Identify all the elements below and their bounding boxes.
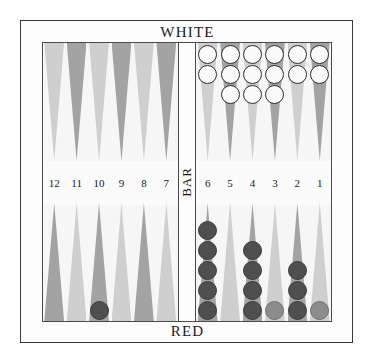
point-8[interactable] bbox=[133, 43, 155, 161]
point-9[interactable] bbox=[110, 203, 132, 321]
bar[interactable]: BAR bbox=[178, 43, 197, 321]
point-6[interactable] bbox=[196, 43, 218, 161]
point-triangle-icon bbox=[134, 43, 154, 161]
point-4[interactable] bbox=[241, 43, 263, 161]
point-11[interactable] bbox=[65, 203, 87, 321]
checker-stack[interactable] bbox=[196, 220, 218, 320]
point-number-12: 12 bbox=[43, 177, 65, 189]
checker-red[interactable] bbox=[198, 281, 217, 300]
checker-white[interactable] bbox=[243, 45, 262, 64]
point-triangle-icon bbox=[89, 43, 109, 161]
point-number-5: 5 bbox=[219, 177, 241, 189]
checker-red[interactable] bbox=[198, 261, 217, 280]
point-9[interactable] bbox=[110, 43, 132, 161]
checker-red[interactable] bbox=[198, 241, 217, 260]
checker-white[interactable] bbox=[265, 65, 284, 84]
checker-red-light[interactable] bbox=[265, 301, 284, 320]
point-1[interactable] bbox=[309, 43, 331, 161]
point-12[interactable] bbox=[43, 203, 65, 321]
player-label-white: WHITE bbox=[21, 24, 354, 41]
checker-white[interactable] bbox=[243, 65, 262, 84]
checker-stack[interactable] bbox=[309, 300, 331, 320]
point-number-11: 11 bbox=[65, 177, 87, 189]
checker-white[interactable] bbox=[221, 85, 240, 104]
point-triangle-icon bbox=[156, 203, 176, 321]
checker-white[interactable] bbox=[288, 65, 307, 84]
left-point-numbers: 121110987 bbox=[43, 161, 178, 205]
checker-white[interactable] bbox=[198, 65, 217, 84]
point-12[interactable] bbox=[43, 43, 65, 161]
left-bottom-quadrant bbox=[43, 203, 178, 321]
board-frame: WHITE RED 121110987 BAR 654321 bbox=[20, 20, 353, 343]
point-number-10: 10 bbox=[88, 177, 110, 189]
point-triangle-icon bbox=[67, 203, 87, 321]
point-6[interactable] bbox=[196, 203, 218, 321]
checker-white[interactable] bbox=[221, 45, 240, 64]
checker-white[interactable] bbox=[265, 85, 284, 104]
right-bottom-quadrant bbox=[196, 203, 331, 321]
point-11[interactable] bbox=[65, 43, 87, 161]
checker-red[interactable] bbox=[288, 301, 307, 320]
checker-white[interactable] bbox=[288, 45, 307, 64]
point-number-9: 9 bbox=[110, 177, 132, 189]
point-5[interactable] bbox=[219, 203, 241, 321]
point-triangle-icon bbox=[156, 43, 176, 161]
checker-red[interactable] bbox=[243, 261, 262, 280]
checker-red[interactable] bbox=[90, 301, 109, 320]
point-7[interactable] bbox=[155, 43, 177, 161]
point-10[interactable] bbox=[88, 203, 110, 321]
point-7[interactable] bbox=[155, 203, 177, 321]
checker-white[interactable] bbox=[310, 45, 329, 64]
checker-stack[interactable] bbox=[264, 300, 286, 320]
checker-white[interactable] bbox=[265, 45, 284, 64]
checker-white[interactable] bbox=[310, 65, 329, 84]
point-number-8: 8 bbox=[133, 177, 155, 189]
point-triangle-icon bbox=[112, 203, 132, 321]
checker-stack[interactable] bbox=[219, 44, 241, 104]
point-2[interactable] bbox=[286, 203, 308, 321]
checker-red[interactable] bbox=[243, 241, 262, 260]
left-top-quadrant bbox=[43, 43, 178, 161]
point-5[interactable] bbox=[219, 43, 241, 161]
checker-red[interactable] bbox=[198, 301, 217, 320]
playing-surface: 121110987 BAR 654321 bbox=[42, 42, 332, 322]
checker-stack[interactable] bbox=[264, 44, 286, 104]
point-3[interactable] bbox=[264, 203, 286, 321]
point-10[interactable] bbox=[88, 43, 110, 161]
point-number-1: 1 bbox=[309, 177, 331, 189]
checker-red[interactable] bbox=[198, 221, 217, 240]
point-triangle-icon bbox=[220, 203, 240, 321]
checker-stack[interactable] bbox=[286, 44, 308, 84]
point-8[interactable] bbox=[133, 203, 155, 321]
bar-label: BAR bbox=[179, 167, 195, 197]
checker-stack[interactable] bbox=[196, 44, 218, 84]
checker-white[interactable] bbox=[243, 85, 262, 104]
right-top-quadrant bbox=[196, 43, 331, 161]
point-triangle-icon bbox=[67, 43, 87, 161]
checker-stack[interactable] bbox=[88, 300, 110, 320]
checker-red-light[interactable] bbox=[310, 301, 329, 320]
point-triangle-icon bbox=[44, 43, 64, 161]
point-3[interactable] bbox=[264, 43, 286, 161]
point-number-7: 7 bbox=[155, 177, 177, 189]
checker-red[interactable] bbox=[243, 281, 262, 300]
right-half: 654321 bbox=[196, 43, 331, 321]
checker-stack[interactable] bbox=[241, 240, 263, 320]
point-1[interactable] bbox=[309, 203, 331, 321]
player-label-red: RED bbox=[21, 323, 354, 340]
checker-stack[interactable] bbox=[309, 44, 331, 84]
checker-red[interactable] bbox=[288, 261, 307, 280]
checker-white[interactable] bbox=[198, 45, 217, 64]
left-half: 121110987 bbox=[43, 43, 178, 321]
point-4[interactable] bbox=[241, 203, 263, 321]
checker-stack[interactable] bbox=[241, 44, 263, 104]
checker-red[interactable] bbox=[288, 281, 307, 300]
checker-stack[interactable] bbox=[286, 260, 308, 320]
point-number-3: 3 bbox=[264, 177, 286, 189]
checker-red[interactable] bbox=[243, 301, 262, 320]
point-2[interactable] bbox=[286, 43, 308, 161]
point-triangle-icon bbox=[134, 203, 154, 321]
point-number-6: 6 bbox=[196, 177, 218, 189]
checker-white[interactable] bbox=[221, 65, 240, 84]
point-number-2: 2 bbox=[286, 177, 308, 189]
